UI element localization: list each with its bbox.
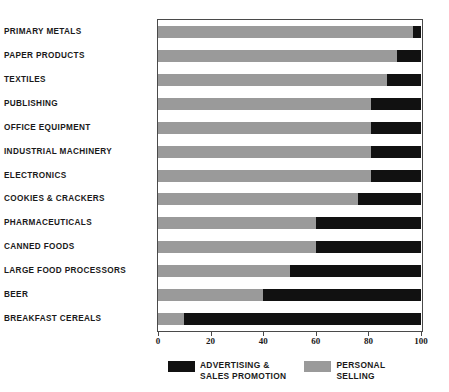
x-tick-label: 0 <box>156 336 161 346</box>
legend-label-line1: ADVERTISING & <box>200 360 270 370</box>
bar-segment-personal-selling <box>158 146 371 158</box>
bar-row <box>158 217 421 229</box>
x-tick-label: 20 <box>206 336 215 346</box>
bar-segment-advertising <box>184 313 421 325</box>
bar-segment-advertising <box>413 26 421 38</box>
x-tick-label: 100 <box>414 336 428 346</box>
bar-segment-personal-selling <box>158 241 316 253</box>
bar-segment-advertising <box>371 146 421 158</box>
bar-segment-personal-selling <box>158 289 263 301</box>
x-tick-label: 80 <box>364 336 373 346</box>
category-label: PAPER PRODUCTS <box>4 51 144 61</box>
bar-segment-personal-selling <box>158 265 290 277</box>
x-tick-label: 40 <box>259 336 268 346</box>
chart-legend: ADVERTISING &SALES PROMOTIONPERSONALSELL… <box>168 360 449 388</box>
bar-row <box>158 193 421 205</box>
bar-segment-personal-selling <box>158 313 184 325</box>
category-label: COOKIES & CRACKERS <box>4 194 144 204</box>
bar-segment-advertising <box>316 241 421 253</box>
category-axis-labels: PRIMARY METALSPAPER PRODUCTSTEXTILESPUBL… <box>0 20 150 331</box>
legend-label: ADVERTISING &SALES PROMOTION <box>200 360 286 381</box>
legend-label-line1: PERSONAL <box>336 360 385 370</box>
bar-segment-personal-selling <box>158 122 371 134</box>
legend-swatch <box>168 361 195 372</box>
category-label: CANNED FOODS <box>4 242 144 252</box>
bar-row <box>158 74 421 86</box>
bar-segment-advertising <box>263 289 421 301</box>
category-label: BEER <box>4 290 144 300</box>
category-label: TEXTILES <box>4 75 144 85</box>
stacked-bar-chart: PRIMARY METALSPAPER PRODUCTSTEXTILESPUBL… <box>0 0 449 392</box>
bar-segment-advertising <box>371 122 421 134</box>
category-label: INDUSTRIAL MACHINERY <box>4 147 144 157</box>
x-tick-label: 60 <box>311 336 320 346</box>
bar-segment-personal-selling <box>158 217 316 229</box>
plot-area <box>158 20 421 331</box>
legend-entry[interactable]: PERSONALSELLING <box>304 360 385 381</box>
bar-segment-personal-selling <box>158 193 358 205</box>
bar-segment-advertising <box>290 265 422 277</box>
legend-entry[interactable]: ADVERTISING &SALES PROMOTION <box>168 360 286 381</box>
bar-segment-advertising <box>397 50 421 62</box>
bar-segment-personal-selling <box>158 26 413 38</box>
bar-row <box>158 241 421 253</box>
legend-swatch <box>304 361 331 372</box>
category-label: LARGE FOOD PROCESSORS <box>4 266 144 276</box>
bar-row <box>158 289 421 301</box>
legend-label-line2: SALES PROMOTION <box>200 371 286 381</box>
bar-segment-personal-selling <box>158 170 371 182</box>
bar-row <box>158 146 421 158</box>
bar-row <box>158 26 421 38</box>
bar-segment-advertising <box>387 74 421 86</box>
category-label: PRIMARY METALS <box>4 27 144 37</box>
bar-segment-advertising <box>371 170 421 182</box>
bar-segment-advertising <box>371 98 421 110</box>
bar-segment-advertising <box>316 217 421 229</box>
bar-row <box>158 122 421 134</box>
bar-segment-personal-selling <box>158 74 387 86</box>
bar-row <box>158 265 421 277</box>
category-label: PHARMACEUTICALS <box>4 218 144 228</box>
category-label: PUBLISHING <box>4 99 144 109</box>
bar-segment-advertising <box>358 193 421 205</box>
bar-row <box>158 50 421 62</box>
bar-row <box>158 170 421 182</box>
bar-segment-personal-selling <box>158 50 397 62</box>
legend-label: PERSONALSELLING <box>336 360 385 381</box>
legend-label-line2: SELLING <box>336 371 374 381</box>
bar-row <box>158 98 421 110</box>
bar-row <box>158 313 421 325</box>
x-axis: 020406080100 <box>157 332 423 348</box>
category-label: BREAKFAST CEREALS <box>4 314 144 324</box>
category-label: OFFICE EQUIPMENT <box>4 123 144 133</box>
bar-segment-personal-selling <box>158 98 371 110</box>
category-label: ELECTRONICS <box>4 171 144 181</box>
